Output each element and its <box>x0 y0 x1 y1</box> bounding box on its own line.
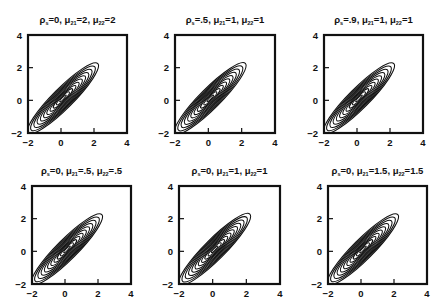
axes-frame <box>32 186 131 284</box>
panel-title: ρs=.5, μ21=1, μ22=1 <box>186 14 265 26</box>
x-tick-label: −2 <box>27 288 38 299</box>
x-tick-label: 0 <box>210 288 215 299</box>
x-tick-label: 4 <box>128 288 134 299</box>
contour-panel: ρs=.9, μ21=1, μ22=1−2024−2024 <box>307 14 426 148</box>
x-tick-label: 4 <box>272 137 278 148</box>
axes-frame <box>175 35 275 133</box>
x-tick-label: −2 <box>319 137 330 148</box>
y-tick-label: −2 <box>307 128 318 139</box>
x-tick-label: 2 <box>95 288 100 299</box>
y-tick-label: 2 <box>164 62 169 73</box>
axes-frame <box>179 186 280 284</box>
x-tick-label: 4 <box>277 288 283 299</box>
contour-panel: ρs=0, μ21=2, μ22=2−2024−2024 <box>11 14 130 148</box>
y-tick-label: 4 <box>317 181 323 192</box>
contour-panel: ρs=.5, μ21=1, μ22=1−2024−2024 <box>158 14 278 148</box>
x-tick-label: 2 <box>391 288 396 299</box>
panel-title: ρs=0, μ21=2, μ22=2 <box>40 14 116 26</box>
panel-title: ρs=0, μ21=1.5, μ22=1.5 <box>332 165 424 177</box>
axes-frame <box>324 35 423 133</box>
y-tick-label: 0 <box>313 95 318 106</box>
x-tick-label: 4 <box>124 137 130 148</box>
contour-lines <box>21 56 105 140</box>
contour-lines <box>168 56 252 140</box>
x-tick-label: 2 <box>244 288 249 299</box>
x-tick-label: −2 <box>170 137 181 148</box>
x-tick-label: 0 <box>62 288 67 299</box>
contour-lines <box>321 207 405 291</box>
x-tick-label: −2 <box>323 288 334 299</box>
panel-title: ρs=0, μ21=1, μ22=1 <box>192 165 269 177</box>
y-tick-label: 4 <box>21 181 27 192</box>
y-tick-label: 0 <box>21 246 26 257</box>
y-tick-label: −2 <box>11 128 22 139</box>
y-tick-label: 4 <box>168 181 174 192</box>
x-tick-label: −2 <box>174 288 185 299</box>
y-tick-label: 2 <box>313 62 318 73</box>
y-tick-label: 4 <box>313 30 319 41</box>
y-tick-label: 2 <box>168 213 173 224</box>
y-tick-label: 0 <box>317 246 322 257</box>
y-tick-label: 4 <box>17 30 23 41</box>
contour-lines <box>172 207 257 292</box>
axes-frame <box>28 35 127 133</box>
y-tick-label: 0 <box>168 246 173 257</box>
y-tick-label: 2 <box>17 62 22 73</box>
panel-title: ρs=0, μ21=.5, μ22=.5 <box>41 165 123 177</box>
x-tick-label: −2 <box>23 137 34 148</box>
x-tick-label: 2 <box>239 137 244 148</box>
y-tick-label: −2 <box>15 279 26 290</box>
contour-figure: ρs=0, μ21=2, μ22=2−2024−2024ρs=.5, μ21=1… <box>0 0 437 308</box>
axes-frame <box>328 186 427 284</box>
y-tick-label: −2 <box>311 279 322 290</box>
y-tick-label: 4 <box>164 30 170 41</box>
y-tick-label: −2 <box>162 279 173 290</box>
panel-title: ρs=.9, μ21=1, μ22=1 <box>334 14 413 26</box>
x-tick-label: 0 <box>354 137 359 148</box>
y-tick-label: 0 <box>164 95 169 106</box>
x-tick-label: 0 <box>206 137 211 148</box>
contour-lines <box>25 207 109 291</box>
contour-panel: ρs=0, μ21=1.5, μ22=1.5−2024−2024 <box>311 165 430 299</box>
x-tick-label: 2 <box>91 137 96 148</box>
contour-panel: ρs=0, μ21=1, μ22=1−2024−2024 <box>162 165 283 299</box>
y-tick-label: 0 <box>17 95 22 106</box>
x-tick-label: 4 <box>424 288 430 299</box>
contour-lines <box>317 56 401 140</box>
contour-panel: ρs=0, μ21=.5, μ22=.5−2024−2024 <box>15 165 134 299</box>
x-tick-label: 2 <box>387 137 392 148</box>
y-tick-label: 2 <box>21 213 26 224</box>
x-tick-label: 0 <box>358 288 363 299</box>
x-tick-label: 4 <box>420 137 426 148</box>
y-tick-label: −2 <box>158 128 169 139</box>
y-tick-label: 2 <box>317 213 322 224</box>
x-tick-label: 0 <box>58 137 63 148</box>
